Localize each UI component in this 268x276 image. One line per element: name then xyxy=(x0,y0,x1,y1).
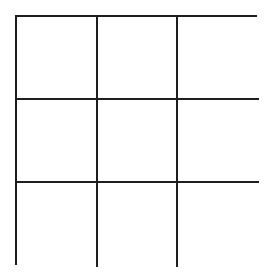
cell-1-1[interactable] xyxy=(98,100,178,183)
cell-0-0[interactable] xyxy=(17,17,98,100)
tic-tac-toe-board xyxy=(15,15,257,265)
cell-1-0[interactable] xyxy=(17,100,98,183)
cell-0-2[interactable] xyxy=(178,17,259,100)
cell-2-0[interactable] xyxy=(17,183,98,267)
cell-2-2[interactable] xyxy=(178,183,259,267)
cell-0-1[interactable] xyxy=(98,17,178,100)
cell-2-1[interactable] xyxy=(98,183,178,267)
cell-1-2[interactable] xyxy=(178,100,259,183)
